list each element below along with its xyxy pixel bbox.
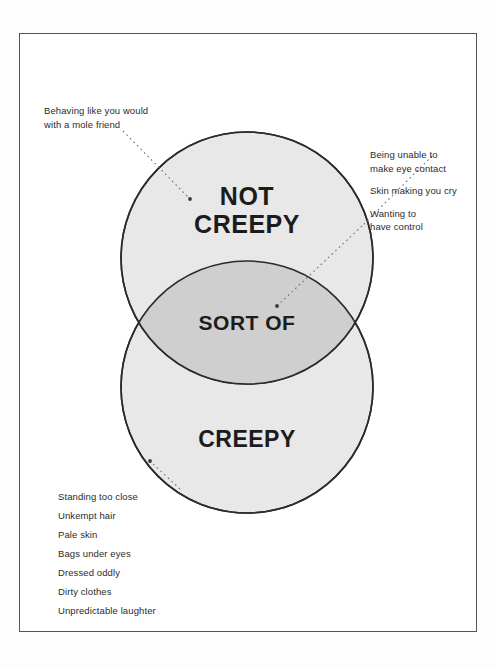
annotation-creepy-6: Dirty clothes: [58, 585, 258, 599]
annotation-creepy-3: Pale skin: [58, 528, 258, 542]
annotation-creepy-5: Dressed oddly: [58, 566, 258, 580]
label-not-creepy-line1: NOT: [220, 182, 274, 210]
annotation-group-intersection: Being unable to make eye contact Skin ma…: [370, 148, 490, 243]
annotation-creepy-1: Standing too close: [58, 490, 258, 504]
annotation-group-creepy: Standing too close Unkempt hair Pale ski…: [58, 490, 258, 623]
annotation-intersection-2: Skin making you cry: [370, 184, 490, 198]
annotation-not-creepy: Behaving like you would with a mole frie…: [44, 104, 204, 131]
annotation-intersection-1: Being unable to make eye contact: [370, 148, 490, 175]
annotation-creepy-7: Unpredictable laughter: [58, 604, 258, 618]
annotation-creepy-2: Unkempt hair: [58, 509, 258, 523]
label-sort-of: SORT OF: [199, 311, 296, 334]
label-not-creepy-line2: CREEPY: [194, 210, 300, 238]
annotation-intersection-3: Wanting to have control: [370, 207, 490, 234]
label-creepy: CREEPY: [198, 426, 296, 452]
annotation-creepy-4: Bags under eyes: [58, 547, 258, 561]
